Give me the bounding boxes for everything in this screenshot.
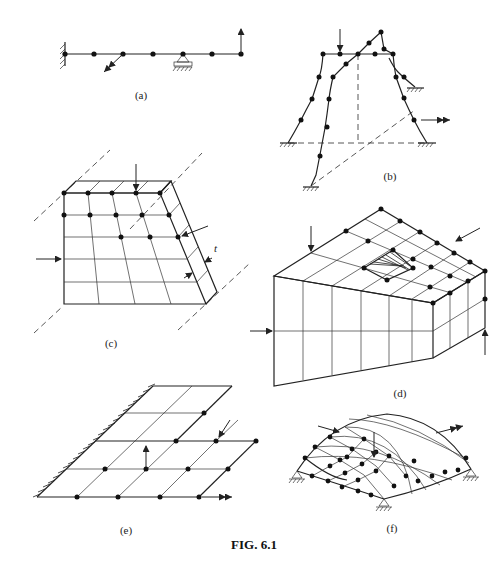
panel-d-block: (d) xyxy=(250,207,488,401)
side-force-arrow-icon xyxy=(318,426,339,432)
panel-f-shell: (f) xyxy=(289,414,479,535)
grid-nodes xyxy=(75,411,259,500)
fig-6-1-diagram: (a) xyxy=(0,0,504,569)
hole-hatch-icon xyxy=(364,250,413,280)
panel-b-frame: (b) xyxy=(280,29,450,191)
moment-arrow-icon xyxy=(436,426,463,433)
panel-e-label: (e) xyxy=(120,524,133,537)
block-nodes xyxy=(344,207,488,306)
thickness-label: t xyxy=(214,242,218,254)
side-force-arrow-icon xyxy=(456,228,480,241)
panel-a-beam: (a) xyxy=(60,29,244,102)
panel-e-grid: (e) xyxy=(33,384,259,537)
side-force-arrow-icon xyxy=(219,420,230,437)
thickness-arrow-icon xyxy=(184,273,192,278)
panel-f-label: (f) xyxy=(387,522,398,535)
panel-c-label: (c) xyxy=(105,337,118,350)
panel-a-label: (a) xyxy=(135,89,148,102)
panel-b-label: (b) xyxy=(384,170,397,183)
figure-caption: FIG. 6.1 xyxy=(231,537,277,552)
frame-nodes xyxy=(299,30,417,159)
shell-nodes xyxy=(303,435,469,498)
side-force-arrow-icon xyxy=(182,226,208,236)
panel-d-label: (d) xyxy=(394,387,407,400)
panel-c-plate: t (c) xyxy=(34,150,250,350)
moment-arrow-icon xyxy=(104,54,123,72)
thickness-arrow-icon xyxy=(205,258,212,262)
